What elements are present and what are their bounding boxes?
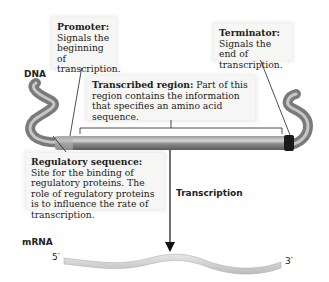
terminator-band <box>284 135 294 151</box>
five-prime-label: 5′ <box>52 252 60 262</box>
regulatory-sequence-term: Regulatory sequence: <box>31 156 142 167</box>
dna-left-curl <box>30 83 70 143</box>
promoter-callout: Promoter: Signals the beginning of trans… <box>52 18 116 68</box>
terminator-text: Signals the end of transcription. <box>219 38 283 70</box>
promoter-text: Signals the beginning of transcription. <box>57 32 121 75</box>
dna-tube <box>55 136 290 150</box>
mrna-label: mRNA <box>22 237 53 247</box>
promoter-leader <box>70 66 82 136</box>
three-prime-label: 3′ <box>285 256 293 266</box>
transcribed-region-callout: Transcribed region: Part of this region … <box>87 76 255 120</box>
promoter-term: Promoter: <box>57 21 109 32</box>
transcription-label: Transcription <box>176 188 243 198</box>
regulatory-sequence-callout: Regulatory sequence: Site for the bindin… <box>26 153 164 209</box>
terminator-callout: Terminator: Signals the end of transcrip… <box>214 24 292 60</box>
promoter-segment <box>55 136 73 150</box>
transcribed-region-term: Transcribed region: <box>92 79 193 90</box>
mrna-strand <box>64 254 281 274</box>
diagram: Promoter: Signals the beginning of trans… <box>0 0 329 282</box>
dna-label: DNA <box>24 69 46 79</box>
transcription-arrow-head <box>165 242 175 252</box>
transcribed-region-bracket <box>80 128 282 134</box>
terminator-term: Terminator: <box>219 27 280 38</box>
